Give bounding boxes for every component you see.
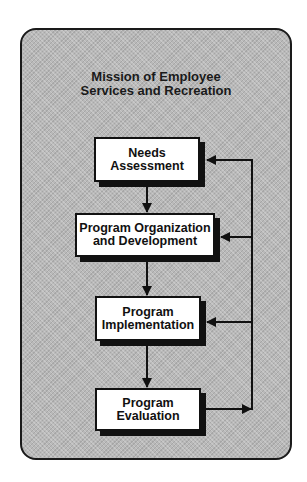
node-program-organization: Program Organization and Development xyxy=(75,213,215,257)
node-label-line: Needs xyxy=(128,147,166,160)
node-label-line: Implementation xyxy=(102,319,194,332)
node-label-line: Program xyxy=(122,397,173,410)
node-label-line: and Development xyxy=(93,235,197,248)
node-label-line: Assessment xyxy=(110,160,184,173)
node-label-line: Evaluation xyxy=(116,410,179,423)
node-program-implementation: Program Implementation xyxy=(95,296,201,341)
node-label-line: Program xyxy=(122,306,173,319)
node-needs-assessment: Needs Assessment xyxy=(94,137,200,182)
node-program-evaluation: Program Evaluation xyxy=(95,388,201,431)
